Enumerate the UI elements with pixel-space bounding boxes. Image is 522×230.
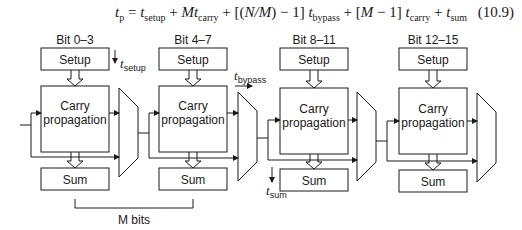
setup-label: Setup: [417, 53, 449, 67]
carry-label: Carry: [178, 99, 207, 113]
m-bits-label: M bits: [118, 213, 150, 227]
bypass-mux: [238, 92, 257, 181]
carry-to-sum-arrow: [67, 152, 83, 168]
propagation-label: propagation: [161, 113, 224, 127]
block-title: Bit 12–15: [408, 33, 459, 47]
bypass-mux: [477, 93, 496, 182]
setup-label: Setup: [59, 53, 91, 67]
setup-label: Setup: [177, 53, 209, 67]
carry-label: Carry: [299, 102, 328, 116]
t-bypass-label: tbypass: [234, 68, 267, 85]
sum-label: Sum: [181, 173, 206, 187]
block-title: Bit 0–3: [56, 33, 94, 47]
carry-label: Carry: [418, 102, 447, 116]
setup-to-carry-arrow: [67, 70, 83, 86]
bypass-mux: [357, 92, 376, 181]
sum-label: Sum: [302, 174, 327, 188]
propagation-label: propagation: [401, 116, 464, 130]
propagation-label: propagation: [282, 116, 345, 130]
carry-bypass-adder-diagram: Bit 0–3 Bit 4–7 Bit 8–11 Bit 12–15 Setup…: [0, 0, 522, 230]
carry-label: Carry: [60, 99, 89, 113]
propagation-label: propagation: [43, 113, 106, 127]
bypass-mux: [119, 88, 138, 177]
sum-label: Sum: [63, 173, 88, 187]
sum-label: Sum: [421, 175, 446, 189]
block-title: Bit 8–11: [292, 33, 335, 47]
m-bits-bracket: [75, 199, 193, 208]
setup-label: Setup: [298, 53, 330, 67]
block-title: Bit 4–7: [174, 33, 212, 47]
t-setup-label: tsetup: [120, 56, 146, 73]
